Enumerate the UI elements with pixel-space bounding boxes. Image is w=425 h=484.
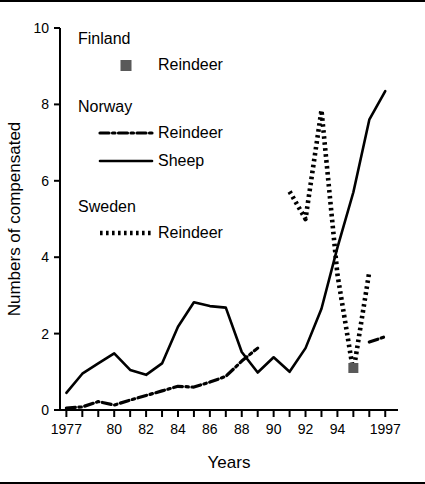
x-tick-label: 92 bbox=[298, 421, 314, 437]
y-tick-label: 6 bbox=[41, 173, 49, 189]
legend-country-heading: Norway bbox=[78, 98, 132, 115]
legend-entry-label: Sheep bbox=[158, 152, 204, 169]
legend-group-finland: FinlandReindeer bbox=[78, 30, 224, 73]
x-tick-label: 1977 bbox=[51, 421, 82, 437]
legend-square-marker-icon bbox=[121, 60, 132, 71]
x-tick-label: 80 bbox=[106, 421, 122, 437]
legend-entry-label: Reindeer bbox=[158, 124, 224, 141]
data-point-marker bbox=[348, 363, 358, 373]
legend-entry-sweden-reindeer[interactable]: Reindeer bbox=[100, 224, 224, 241]
legend-entry-norway-reindeer[interactable]: Reindeer bbox=[100, 124, 224, 141]
legend-group-norway: NorwayReindeerSheep bbox=[78, 98, 224, 169]
series-finland-reindeer bbox=[348, 363, 358, 373]
line-chart: 0246810 197780828486889092941997 Numbers… bbox=[0, 0, 425, 484]
x-tick-label: 82 bbox=[138, 421, 154, 437]
x-tick-label: 94 bbox=[330, 421, 346, 437]
x-tick-label: 1997 bbox=[370, 421, 401, 437]
legend-group-sweden: SwedenReindeer bbox=[78, 198, 224, 241]
legend-country-heading: Sweden bbox=[78, 198, 136, 215]
figure-container: 0246810 197780828486889092941997 Numbers… bbox=[0, 0, 425, 484]
series-line-norway-sheep bbox=[66, 91, 385, 393]
x-tick-label: 90 bbox=[266, 421, 282, 437]
legend-entry-finland-reindeer[interactable]: Reindeer bbox=[121, 56, 224, 73]
y-axis-tick-labels: 0246810 bbox=[33, 20, 49, 418]
x-tick-label: 86 bbox=[202, 421, 218, 437]
y-tick-label: 4 bbox=[41, 249, 49, 265]
series-norway-reindeer bbox=[66, 337, 385, 408]
series-sweden-reindeer bbox=[290, 110, 370, 372]
y-tick-label: 0 bbox=[41, 402, 49, 418]
x-axis-title: Years bbox=[208, 453, 251, 472]
series-line-norway-reindeer bbox=[369, 337, 385, 342]
legend-entry-norway-sheep[interactable]: Sheep bbox=[100, 152, 204, 169]
data-series-layer bbox=[66, 91, 385, 408]
series-norway-sheep bbox=[66, 91, 385, 393]
y-tick-label: 10 bbox=[33, 20, 49, 36]
y-axis-title: Numbers of compensated bbox=[5, 122, 24, 317]
legend-country-heading: Finland bbox=[78, 30, 130, 47]
legend-entry-label: Reindeer bbox=[158, 56, 224, 73]
y-tick-label: 2 bbox=[41, 326, 49, 342]
series-line-sweden-reindeer bbox=[353, 272, 369, 372]
legend-entry-label: Reindeer bbox=[158, 224, 224, 241]
x-axis-ticks bbox=[66, 410, 385, 417]
x-tick-label: 88 bbox=[234, 421, 250, 437]
x-tick-label: 84 bbox=[170, 421, 186, 437]
series-line-sweden-reindeer bbox=[290, 110, 354, 372]
chart-legend: FinlandReindeerNorwayReindeerSheepSweden… bbox=[78, 30, 224, 241]
series-line-norway-reindeer bbox=[66, 348, 257, 408]
y-tick-label: 8 bbox=[41, 96, 49, 112]
x-axis-tick-labels: 197780828486889092941997 bbox=[51, 421, 401, 437]
